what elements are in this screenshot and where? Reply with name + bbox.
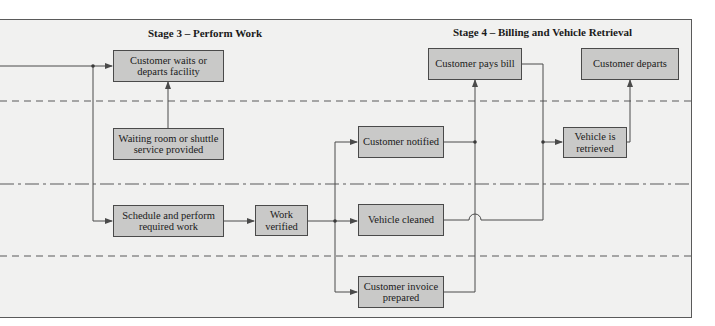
node-customer-notified: Customer notified — [358, 126, 444, 158]
service-blueprint-diagram: Stage 3 – Perform Work Stage 4 – Billing… — [0, 0, 715, 326]
node-customer-pays: Customer pays bill — [428, 48, 522, 80]
node-invoice-prepared: Customer invoice prepared — [358, 276, 444, 308]
node-vehicle-cleaned: Vehicle cleaned — [358, 204, 444, 236]
node-vehicle-retrieved: Vehicle is retrieved — [563, 127, 627, 158]
node-customer-departs: Customer departs — [581, 48, 679, 80]
node-work-verified: Work verified — [255, 205, 308, 236]
node-waiting-room: Waiting room or shuttle service provided — [113, 128, 224, 160]
node-customer-waits: Customer waits or departs facility — [113, 50, 224, 82]
node-schedule-work: Schedule and perform required work — [113, 205, 224, 237]
